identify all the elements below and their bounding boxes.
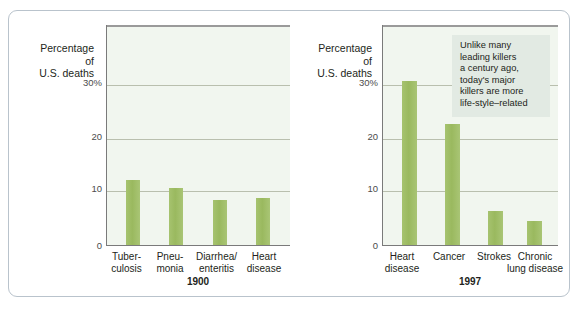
bar-heart-disease — [402, 81, 417, 245]
chart-panel-1900: Percentage of U.S. deaths 30% 20 10 0 Tu… — [0, 0, 290, 287]
x-axis-line-left — [106, 245, 290, 246]
y-tick-10-left: 10 — [68, 183, 102, 194]
y-axis-line-right — [382, 25, 383, 246]
bar-chronic-lung-disease — [527, 221, 542, 245]
y-tick-20-left: 20 — [68, 131, 102, 142]
bar-diarrhea-enteritis — [213, 200, 227, 245]
bar-heart-disease — [256, 198, 270, 245]
y-tick-0-left: 0 — [68, 240, 102, 251]
gridline-20 — [106, 139, 290, 140]
figure-root: Percentage of U.S. deaths 30% 20 10 0 Tu… — [0, 0, 580, 311]
bar-tuberculosis — [126, 180, 140, 245]
x-label-cancer: Cancer — [426, 251, 472, 263]
chart-year-1900: 1900 — [106, 276, 290, 287]
plot-area-1900 — [106, 25, 290, 245]
x-axis-line-right — [382, 245, 558, 246]
chart-year-1997: 1997 — [382, 276, 558, 287]
bar-strokes — [488, 211, 503, 245]
y-tick-30-right: 30% — [344, 77, 378, 88]
y-tick-20-right: 20 — [344, 131, 378, 142]
y-axis-line-left — [106, 25, 107, 246]
y-tick-30-left: 30% — [68, 77, 102, 88]
plot-area-1997: Unlike many leading killers a century ag… — [382, 25, 558, 245]
x-label-chronic-lung-disease: Chronic lung disease — [504, 251, 566, 274]
annotation-callout: Unlike many leading killers a century ag… — [452, 35, 550, 117]
bar-cancer — [445, 124, 460, 245]
x-label-heart-disease: Heart disease — [376, 251, 428, 274]
y-axis-title-left: Percentage of U.S. deaths — [8, 42, 94, 80]
y-tick-0-right: 0 — [344, 240, 378, 251]
chart-panel-1997: Percentage of U.S. deaths Unlike many le… — [282, 0, 562, 287]
gridline-30 — [106, 85, 290, 86]
y-axis-title-right: Percentage of U.S. deaths — [286, 42, 372, 80]
y-tick-10-right: 10 — [344, 183, 378, 194]
bar-pneumonia — [169, 188, 183, 245]
